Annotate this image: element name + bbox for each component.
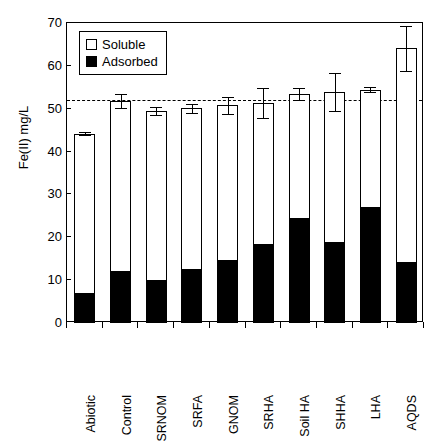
error-bar-cap xyxy=(364,92,376,93)
legend-item-soluble: Soluble xyxy=(86,36,158,53)
error-bar-cap xyxy=(79,132,91,133)
x-axis-tick-mark xyxy=(423,322,424,328)
x-axis-tick-mark xyxy=(102,322,103,328)
y-axis-tick-label: 0 xyxy=(32,316,62,329)
y-axis-tick-label: 50 xyxy=(32,101,62,114)
plot-area: Soluble Adsorbed xyxy=(66,22,423,322)
legend-label-soluble: Soluble xyxy=(102,38,145,51)
error-bar-cap xyxy=(150,107,162,108)
error-bar-cap xyxy=(115,94,127,95)
error-bar-cap xyxy=(186,104,198,105)
x-axis-tick-mark xyxy=(245,322,246,328)
y-axis-tick-mark xyxy=(66,65,71,66)
x-axis-tick-label-abiotic: Abiotic xyxy=(84,395,98,433)
y-axis-tick-label: 30 xyxy=(32,187,62,200)
x-axis-tick-label-srnom: SRNOM xyxy=(155,395,169,442)
error-bar-cap xyxy=(186,113,198,114)
error-bar-cap xyxy=(79,135,91,136)
x-axis-tick-label-aqds: AQDS xyxy=(405,395,419,430)
bar-adsorbed-shha xyxy=(324,242,345,323)
x-axis-tick-mark xyxy=(209,322,210,328)
x-axis-tick-label-shha: SHHA xyxy=(334,395,348,430)
y-axis-tick-mark xyxy=(66,108,71,109)
y-axis-tick-label: 60 xyxy=(32,58,62,71)
x-axis-tick-label-srha: SRHA xyxy=(262,395,276,430)
legend-swatch-soluble-icon xyxy=(86,39,97,50)
x-axis-tick-label-srfa: SRFA xyxy=(191,395,205,428)
error-bar-cap xyxy=(222,114,234,115)
y-axis-tick-mark xyxy=(66,151,71,152)
error-bar-srfa xyxy=(192,104,193,113)
legend-swatch-adsorbed-icon xyxy=(86,56,97,67)
y-axis-tick-label: 10 xyxy=(32,273,62,286)
x-axis-tick-label-soil-ha: Soil HA xyxy=(298,395,312,437)
x-axis-tick-mark xyxy=(352,322,353,328)
y-axis-tick-label: 70 xyxy=(32,16,62,29)
y-axis-tick-mark xyxy=(66,236,71,237)
error-bar-cap xyxy=(257,88,269,89)
error-bar-cap xyxy=(329,73,341,74)
bar-adsorbed-gnom xyxy=(217,260,238,323)
legend-label-adsorbed: Adsorbed xyxy=(102,55,158,68)
error-bar-cap xyxy=(293,88,305,89)
error-bar-cap xyxy=(364,87,376,88)
bar-adsorbed-soil-ha xyxy=(289,218,310,323)
error-bar-cap xyxy=(400,71,412,72)
error-bar-cap xyxy=(222,97,234,98)
error-bar-soil-ha xyxy=(299,88,300,100)
x-axis-tick-label-lha: LHA xyxy=(369,395,383,419)
error-bar-cap xyxy=(257,118,269,119)
bar-adsorbed-abiotic xyxy=(74,293,95,323)
bar-adsorbed-srnom xyxy=(146,280,167,323)
error-bar-cap xyxy=(150,115,162,116)
x-axis-tick-mark xyxy=(316,322,317,328)
error-bar-aqds xyxy=(406,26,407,71)
bar-adsorbed-aqds xyxy=(396,262,417,323)
x-axis-tick-label-control: Control xyxy=(120,395,134,435)
bar-adsorbed-control xyxy=(110,271,131,323)
y-axis-tick-label: 20 xyxy=(32,230,62,243)
error-bar-cap xyxy=(400,26,412,27)
x-axis-tick-mark xyxy=(66,322,67,328)
y-axis-tick-mark xyxy=(66,193,71,194)
x-axis-tick-mark xyxy=(387,322,388,328)
error-bar-shha xyxy=(335,73,336,112)
error-bar-srnom xyxy=(156,107,157,115)
y-axis-tick-label: 40 xyxy=(32,144,62,157)
x-axis-tick-mark xyxy=(280,322,281,328)
y-axis-tick-mark xyxy=(66,279,71,280)
bar-adsorbed-lha xyxy=(360,207,381,323)
bar-adsorbed-srha xyxy=(253,244,274,323)
y-axis-tick-group: 010203040506070 xyxy=(0,0,62,400)
error-bar-cap xyxy=(293,100,305,101)
error-bar-srha xyxy=(263,88,264,118)
legend: Soluble Adsorbed xyxy=(79,31,167,75)
error-bar-gnom xyxy=(228,97,229,114)
bar-adsorbed-srfa xyxy=(181,269,202,323)
x-axis-tick-label-gnom: GNOM xyxy=(227,395,241,434)
x-axis-tick-mark xyxy=(137,322,138,328)
error-bar-control xyxy=(121,94,122,108)
error-bar-cap xyxy=(329,111,341,112)
x-axis-tick-mark xyxy=(173,322,174,328)
error-bar-cap xyxy=(115,108,127,109)
legend-item-adsorbed: Adsorbed xyxy=(86,53,158,70)
